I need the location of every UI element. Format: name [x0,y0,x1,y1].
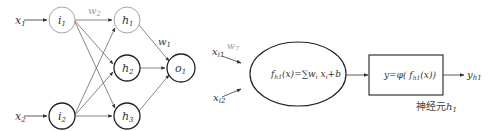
label-w2: w2 [88,5,102,18]
neural-network-diagram: x1 x2 i1 i2 h1 h2 h3 o1 w2 w1 xi1 xi2 w7… [0,0,491,131]
label-w1: w1 [158,36,171,49]
right-neuron: xi1 xi2 w7 fh1(x)=∑wi xi+b y=φ( fh1(x)) … [212,41,482,114]
input-hidden-connections [75,20,115,116]
label-x1: x1 [15,14,26,28]
left-network: x1 x2 i1 i2 h1 h2 h3 o1 w2 w1 [15,5,195,129]
label-weight-neuron: w7 [227,41,240,53]
label-x2: x2 [15,110,26,124]
neuron-caption: 神经元h1 [416,100,457,114]
neuron-input-arrow-2 [222,89,241,97]
neuron-input-arrow-1 [222,56,241,63]
label-output-yh1: yh1 [466,69,482,82]
label-xi2: xi2 [213,92,226,105]
activation-formula: y=φ( fh1(x)) [383,70,436,81]
label-xi1: xi1 [212,46,224,59]
